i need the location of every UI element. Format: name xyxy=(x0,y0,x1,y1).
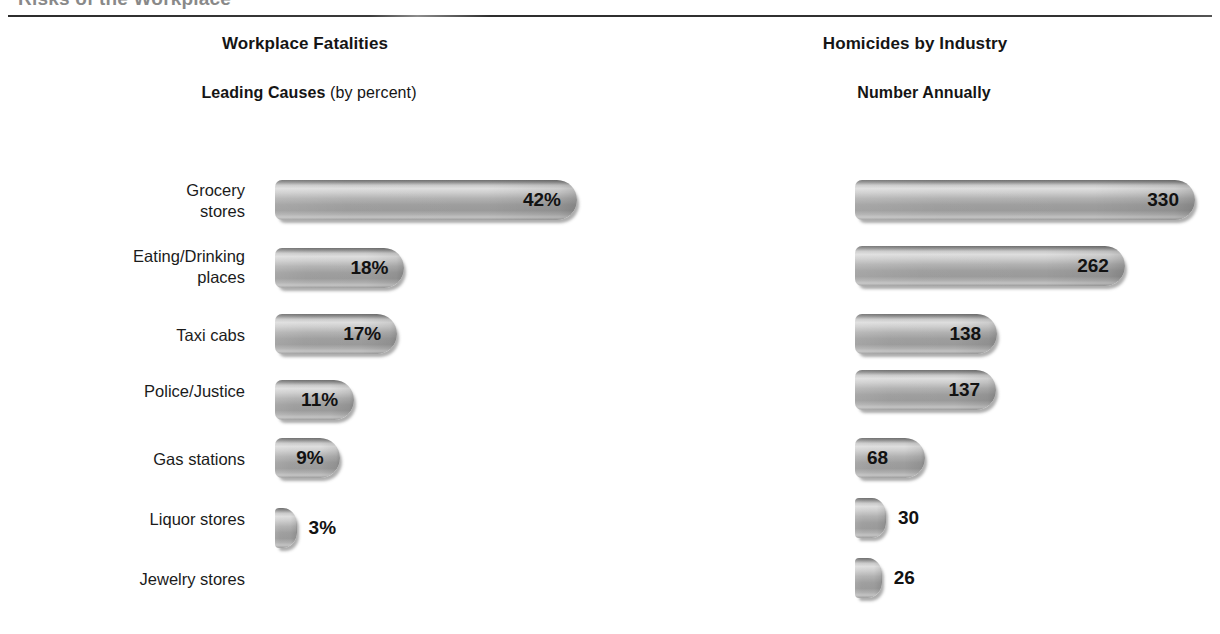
chart-subtitle-left-light: (by percent) xyxy=(325,84,416,101)
bar[interactable]: 137 xyxy=(855,370,996,410)
bar-track: 11% xyxy=(275,380,354,422)
bar[interactable]: 26 xyxy=(855,558,882,598)
bar-track: 18% xyxy=(275,248,404,290)
chart-title-left: Workplace Fatalities xyxy=(0,30,610,54)
clipped-page-headline: Risks of the Workplace xyxy=(18,0,231,14)
bar-track: 330 xyxy=(855,180,1195,222)
bar[interactable]: 138 xyxy=(855,314,997,354)
bar-category-label: Taxi cabs xyxy=(15,325,245,346)
bar-category-label: Jewelry stores xyxy=(15,569,245,590)
bar[interactable]: 42% xyxy=(275,180,577,220)
bar[interactable]: 3% xyxy=(275,508,297,548)
bar-value-label: 26 xyxy=(894,558,915,598)
bar[interactable]: 330 xyxy=(855,180,1195,220)
bar-value-label: 18% xyxy=(350,248,388,288)
bar-value-label: 137 xyxy=(948,370,980,410)
bar[interactable]: 30 xyxy=(855,498,886,538)
bar[interactable]: 9% xyxy=(275,438,340,478)
bar-track: 262 xyxy=(855,246,1125,288)
bar-track: 17% xyxy=(275,314,397,356)
bar-category-label: Eating/Drinking places xyxy=(15,246,245,288)
bar-value-label: 42% xyxy=(523,180,561,220)
bar-track: 137 xyxy=(855,370,996,412)
bar-value-label: 262 xyxy=(1077,246,1109,286)
bar[interactable]: 262 xyxy=(855,246,1125,286)
bar-track: 3% xyxy=(275,508,297,550)
bar-category-label: Liquor stores xyxy=(15,509,245,530)
bar-value-label: 3% xyxy=(309,508,336,548)
bar-value-label: 68 xyxy=(867,438,888,478)
bar-track: 68 xyxy=(855,438,925,480)
bar[interactable]: 17% xyxy=(275,314,397,354)
bar-value-label: 30 xyxy=(898,498,919,538)
chart-panel-homicides-by-industry: Homicides by Industry Number Annually Gr… xyxy=(610,30,1220,610)
header-divider-rule xyxy=(8,15,1212,17)
bar-track: 30 xyxy=(855,498,886,540)
bar-value-label: 9% xyxy=(296,438,323,478)
bar-value-label: 138 xyxy=(949,314,981,354)
bar-track: 9% xyxy=(275,438,340,480)
bar-track: 26 xyxy=(855,558,882,600)
chart-title-right: Homicides by Industry xyxy=(610,30,1220,54)
bar[interactable]: 18% xyxy=(275,248,404,288)
bar-category-label: Gas stations xyxy=(15,449,245,470)
bar-value-label: 330 xyxy=(1147,180,1179,220)
bar[interactable]: 68 xyxy=(855,438,925,478)
bar-track: 138 xyxy=(855,314,997,356)
bar-value-label: 17% xyxy=(343,314,381,354)
bar-category-label: Grocery stores xyxy=(15,180,245,222)
chart-subtitle-right-strong: Number Annually xyxy=(857,84,990,101)
chart-subtitle-left-strong: Leading Causes xyxy=(201,84,325,101)
bar-track: 42% xyxy=(275,180,577,222)
chart-subtitle-left: Leading Causes (by percent) xyxy=(0,54,610,102)
bar-category-label: Police/Justice xyxy=(15,381,245,402)
bar-value-label: 11% xyxy=(301,380,338,420)
chart-subtitle-right: Number Annually xyxy=(610,54,1220,102)
bar[interactable]: 11% xyxy=(275,380,354,420)
